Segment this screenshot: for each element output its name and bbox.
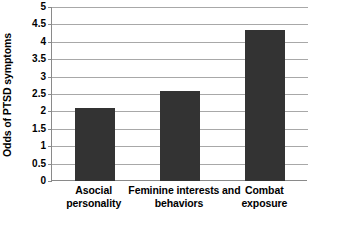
- x-axis-category-label-line: Combat: [214, 184, 315, 197]
- bar-chart: Odds of PTSD symptoms 00.511.522.533.544…: [0, 0, 337, 232]
- bar: [245, 30, 285, 181]
- y-axis-tick-label: 2.5: [16, 89, 46, 99]
- x-axis-category-label: Combatexposure: [214, 184, 315, 209]
- y-axis-tick-mark: [48, 181, 52, 182]
- y-axis-tick-label: 4: [16, 37, 46, 47]
- y-axis-tick-label: 1.5: [16, 124, 46, 134]
- plot-area: [51, 7, 307, 181]
- y-axis-tick-label: 0.5: [16, 159, 46, 169]
- x-axis-category-labels: AsocialpersonalityFeminine interests and…: [51, 184, 307, 228]
- bar: [75, 108, 115, 181]
- y-axis-tick-label: 5: [16, 2, 46, 12]
- y-axis-tick-label: 3: [16, 72, 46, 82]
- y-axis-tick-label: 1: [16, 141, 46, 151]
- y-axis-tick-label: 2: [16, 106, 46, 116]
- x-axis-category-label-line: exposure: [214, 197, 315, 210]
- bar: [160, 91, 200, 181]
- y-axis-tick-label: 3.5: [16, 54, 46, 64]
- y-axis-title: Odds of PTSD symptoms: [0, 2, 14, 188]
- y-axis-tick-label: 4.5: [16, 19, 46, 29]
- y-axis-tick-labels: 00.511.522.533.544.55: [16, 0, 46, 232]
- y-axis-tick-label: 0: [16, 176, 46, 186]
- bars: [52, 7, 308, 181]
